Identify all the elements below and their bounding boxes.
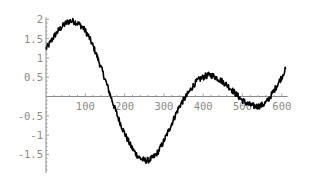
y-tick-label: 0.5 [24, 71, 43, 83]
x-tick-label: 400 [194, 100, 213, 112]
y-axis: 21.510.5-0.5-1-1.5 [18, 13, 49, 173]
y-tick-label: 2 [37, 13, 43, 25]
x-tick-label: 200 [115, 100, 134, 112]
x-tick-label: 100 [76, 100, 95, 112]
x-tick-label: 300 [154, 100, 173, 112]
data-line [46, 18, 286, 163]
x-tick-label: 600 [272, 100, 291, 112]
y-tick-label: -0.5 [18, 110, 43, 122]
y-tick-label: 1.5 [24, 33, 43, 45]
y-tick-label: 1 [37, 52, 43, 64]
y-tick-label: -1 [30, 129, 43, 141]
series-layer [46, 18, 286, 163]
line-chart: 100200300400500600 21.510.5-0.5-1-1.5 [0, 0, 315, 183]
y-tick-label: -1.5 [18, 148, 43, 160]
